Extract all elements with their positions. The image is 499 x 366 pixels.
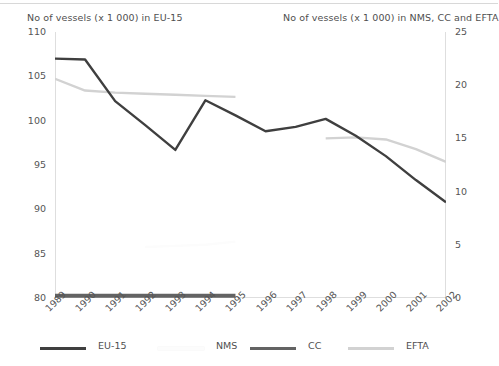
series-line-eu15 bbox=[55, 59, 446, 203]
chart-canvas bbox=[55, 32, 446, 298]
x-axis-ticklabel: 1989 bbox=[43, 289, 68, 314]
legend-label: CC bbox=[308, 340, 321, 351]
left-axis-ticklabel: 80 bbox=[20, 292, 46, 303]
chart-legend: EU-15NMSCCEFTA bbox=[0, 338, 498, 364]
legend-label: NMS bbox=[216, 340, 237, 351]
left-axis-ticklabel: 90 bbox=[20, 203, 46, 214]
series-line-nms bbox=[145, 242, 235, 247]
legend-label: EU-15 bbox=[98, 340, 126, 351]
series-line-efta bbox=[55, 79, 235, 97]
legend-swatch-icon bbox=[348, 347, 394, 350]
right-axis-ticklabel: 15 bbox=[455, 132, 481, 143]
top-divider bbox=[0, 3, 498, 4]
series-line-efta bbox=[326, 137, 446, 161]
left-axis-ticklabel: 110 bbox=[20, 26, 46, 37]
left-axis-ticklabel: 100 bbox=[20, 115, 46, 126]
legend-swatch-icon bbox=[158, 347, 204, 350]
legend-swatch-icon bbox=[40, 347, 86, 350]
right-axis-ticklabel: 10 bbox=[455, 186, 481, 197]
legend-label: EFTA bbox=[406, 340, 429, 351]
right-axis-ticklabel: 20 bbox=[455, 79, 481, 90]
right-axis-title: No of vessels (x 1 000) in NMS, CC and E… bbox=[283, 12, 499, 23]
legend-swatch-icon bbox=[250, 347, 296, 350]
right-axis-ticklabel: 5 bbox=[455, 239, 481, 250]
right-axis-ticklabel: 25 bbox=[455, 26, 481, 37]
left-axis-ticklabel: 85 bbox=[20, 248, 46, 259]
right-axis-ticklabel: 0 bbox=[455, 292, 481, 303]
plot-area bbox=[55, 32, 446, 298]
left-axis-ticklabel: 105 bbox=[20, 70, 46, 81]
left-axis-ticklabel: 95 bbox=[20, 159, 46, 170]
left-axis-title: No of vessels (x 1 000) in EU-15 bbox=[27, 12, 183, 23]
